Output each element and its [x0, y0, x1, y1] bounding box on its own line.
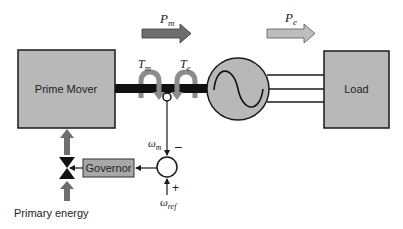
generator-symbol [207, 58, 269, 120]
governor-label: Governor [86, 162, 132, 174]
omega-ref-label: ωref [160, 196, 178, 211]
te-label: Te [180, 57, 191, 73]
electrical-power-arrow [267, 24, 315, 43]
prime-mover-label: Prime Mover [35, 83, 98, 95]
power-system-diagram: Pm Pe Prime Mover Tm Te Load [0, 0, 403, 229]
omega-m-label: ωm [148, 137, 162, 152]
minus-sign: − [174, 139, 182, 155]
speed-sensor-node [163, 93, 171, 101]
summing-junction [157, 157, 177, 177]
three-phase-lines [267, 75, 324, 102]
primary-energy-label: Primary energy [14, 207, 89, 219]
pm-label: Pm [159, 11, 175, 28]
tm-label: Tm [138, 57, 151, 73]
pe-label: Pe [284, 10, 297, 27]
energy-flow-arrow-upper [60, 129, 74, 155]
mechanical-power-arrow [142, 24, 191, 43]
plus-sign: + [172, 181, 179, 195]
load-label: Load [344, 83, 368, 95]
energy-flow-arrow-lower [60, 181, 74, 201]
